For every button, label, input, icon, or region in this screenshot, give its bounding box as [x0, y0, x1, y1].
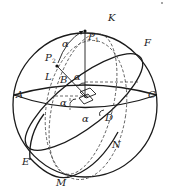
- label-N: N: [111, 139, 122, 150]
- sphere-diagram: K P 1 F α P 2 L B α A C α α D N E M: [0, 0, 170, 189]
- stray-dot: [161, 2, 163, 4]
- point-p1: [83, 29, 86, 32]
- label-L: L: [44, 71, 52, 82]
- angle-arc-left: [70, 99, 76, 103]
- label-A: A: [15, 89, 23, 100]
- label-alpha-bottom: α: [82, 113, 89, 124]
- angle-arc-bottom: [100, 110, 105, 116]
- label-P2: P: [44, 52, 52, 63]
- label-B: B: [59, 74, 67, 85]
- label-P2-sub: 2: [52, 57, 56, 64]
- label-D: D: [104, 112, 113, 123]
- label-C: C: [148, 89, 156, 100]
- label-alpha-top: α: [74, 71, 81, 82]
- point-p2: [55, 64, 58, 67]
- label-M: M: [55, 177, 67, 188]
- label-P1-sub: 1: [95, 36, 99, 43]
- label-F: F: [143, 37, 152, 48]
- label-E: E: [21, 156, 30, 167]
- front-arc-bottom: [30, 132, 118, 178]
- label-alpha-arc: α: [62, 38, 69, 49]
- label-P1: P: [87, 31, 95, 42]
- label-alpha-left: α: [60, 97, 67, 108]
- label-K: K: [107, 12, 116, 23]
